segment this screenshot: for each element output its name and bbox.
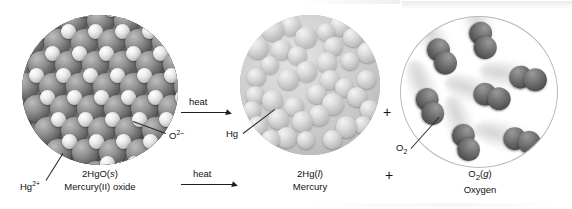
caption-mercury-oxide: 2HgO(s) Mercury(II) oxide (40, 168, 160, 193)
mercury-oxide-crystal-circle (22, 15, 178, 165)
oxide-ion-sphere (143, 134, 158, 149)
caption-oxygen-formula: O2(g) (425, 168, 535, 184)
diagram-canvas: Hg2+ O2– 2HgO(s) Mercury(II) oxide heat … (0, 0, 572, 209)
scan-artifact-band (402, 1, 572, 8)
heat-arrow-upper-shaft (181, 112, 228, 113)
mercury-atom-sphere (278, 69, 299, 90)
caption-oxygen-name: Oxygen (425, 184, 535, 197)
heat-arrow-upper-label: heat (189, 96, 208, 107)
label-mercury-atom: Hg (226, 128, 238, 139)
mercury-liquid-circle (240, 15, 380, 155)
mercury-atom-sphere (341, 52, 359, 70)
oxide-ion-sphere (127, 156, 142, 165)
plus-sign-upper: + (383, 105, 391, 119)
oxygen-gas-circle (400, 16, 558, 168)
oxygen-molecule (501, 125, 543, 157)
scan-artifact-band-bottom (300, 203, 560, 207)
mercury-atom-sphere (296, 61, 318, 83)
scan-artifact-band-secondary (300, 0, 400, 4)
caption-mercury-name: Mercury (255, 181, 365, 194)
heat-arrow-upper: heat (181, 96, 237, 120)
label-mercury-ion: Hg2+ (20, 178, 40, 192)
heat-arrow-lower-label: heat (193, 168, 212, 179)
caption-oxygen: O2(g) Oxygen (425, 168, 535, 197)
oxygen-molecule (466, 19, 500, 62)
mercury-atom-sphere (357, 42, 378, 63)
heat-arrow-lower: heat (181, 168, 241, 192)
caption-mercury-formula: 2Hg(l) (255, 168, 365, 181)
heat-arrow-upper-head (225, 109, 232, 116)
mercury-atom-sphere (261, 130, 280, 149)
oxide-ion-sphere (100, 156, 115, 165)
mercury-atom-sphere (292, 111, 313, 132)
label-oxide-ion: O2– (169, 127, 184, 141)
oxide-ion-sphere (159, 112, 174, 127)
mercury-atom-sphere (297, 131, 315, 149)
label-oxygen-molecule: O2 (396, 142, 407, 157)
heat-arrow-lower-shaft (181, 184, 234, 185)
caption-mercury-oxide-formula: 2HgO(s) (40, 168, 160, 181)
caption-mercury: 2Hg(l) Mercury (255, 168, 365, 193)
heat-arrow-lower-head (231, 181, 238, 188)
mercury-atom-sphere (323, 130, 342, 149)
oxygen-molecule (507, 64, 548, 93)
caption-mercury-oxide-name: Mercury(II) oxide (40, 181, 160, 194)
mercury-atom-sphere (262, 19, 284, 41)
plus-sign-lower: + (385, 168, 393, 182)
